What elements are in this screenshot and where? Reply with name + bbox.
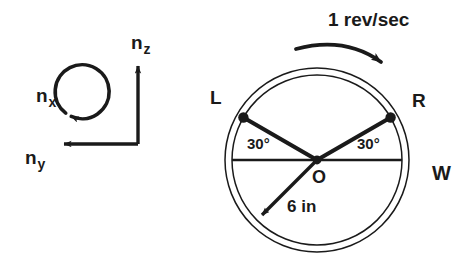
wheel-diagram-figure: [0, 0, 475, 259]
label-n-z-subscript: z: [144, 41, 151, 57]
label-angle-left: 30°: [247, 136, 270, 151]
label-n-y: ny: [25, 148, 44, 167]
curved-rotation-arrow: [296, 45, 381, 62]
label-n-y-subscript: y: [38, 156, 46, 172]
label-point-L: L: [210, 88, 222, 107]
label-n-x-subscript: x: [49, 94, 57, 110]
label-n-z-base: n: [131, 32, 143, 53]
label-n-x: nx: [36, 86, 55, 105]
label-n-z: nz: [131, 33, 150, 52]
point-marker-R: [385, 112, 395, 122]
label-center-O: O: [312, 168, 326, 186]
label-n-x-base: n: [36, 85, 48, 106]
label-wheel-W: W: [432, 163, 451, 183]
label-angle-right: 30°: [357, 136, 380, 151]
circular-spin-arrow: [52, 61, 113, 122]
basis-triad-group: [52, 61, 138, 144]
label-n-y-base: n: [25, 147, 37, 168]
label-point-R: R: [412, 91, 426, 110]
label-rotation-rate: 1 rev/sec: [328, 10, 409, 29]
label-radius-6in: 6 in: [287, 198, 316, 215]
point-marker-L: [238, 112, 248, 122]
point-marker-O: [313, 156, 322, 165]
